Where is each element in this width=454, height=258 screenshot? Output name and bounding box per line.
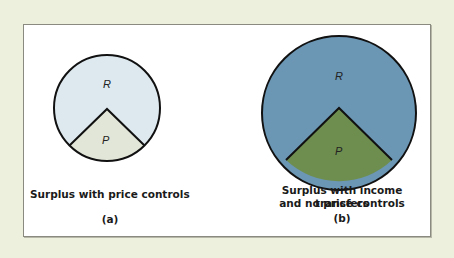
- caption-a: Surplus with price controls: [30, 188, 190, 201]
- region-p-label-a: P: [102, 134, 110, 146]
- label-b: (b): [312, 212, 372, 225]
- pie-b: R P: [262, 36, 416, 190]
- caption-b-line2: and no price controls: [257, 197, 427, 210]
- surplus-diagrams: R P R P: [0, 0, 454, 258]
- region-r-label-b: R: [335, 70, 343, 82]
- region-p-label-b: P: [335, 145, 343, 157]
- pie-a: R P: [54, 55, 160, 161]
- label-a: (a): [80, 213, 140, 226]
- region-r-label-a: R: [103, 78, 111, 90]
